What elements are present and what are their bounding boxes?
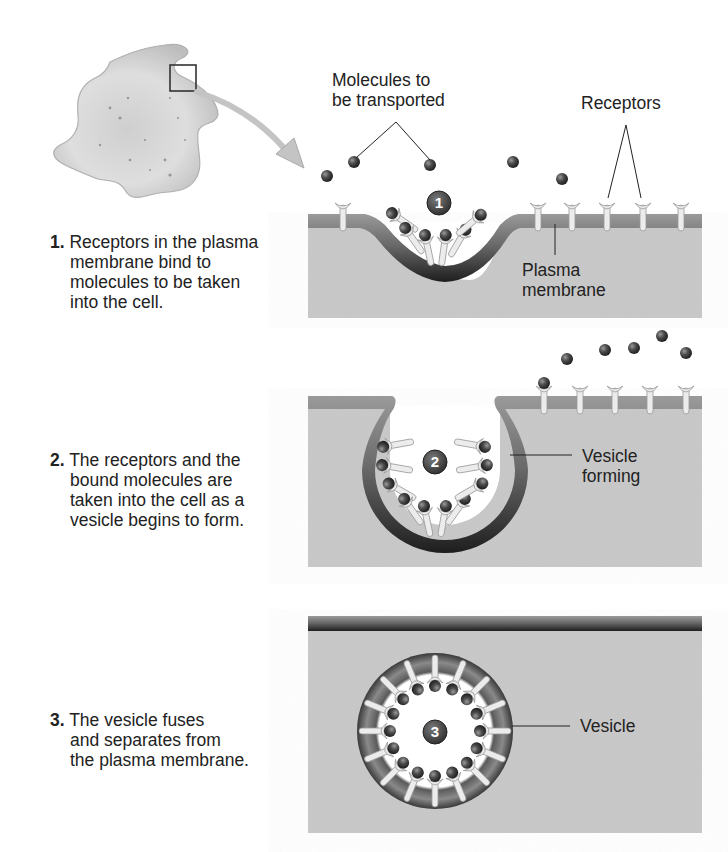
- step-1-line-2: membrane bind to: [50, 252, 258, 272]
- step-badge-2-label: 2: [423, 452, 447, 472]
- step-2-line-3: taken into the cell as a: [50, 490, 244, 510]
- label-vesicle-forming-line2: forming: [582, 466, 640, 486]
- step-caption-3: 3. The vesicle fuses and separates from …: [50, 710, 249, 770]
- amoeba-cell-icon: [54, 44, 218, 197]
- step-number-3: 3.: [50, 710, 65, 730]
- step-3-line-3: the plasma membrane.: [50, 750, 249, 770]
- label-plasma-membrane: Plasma membrane: [522, 260, 606, 300]
- label-vesicle-forming: Vesicle forming: [582, 446, 640, 486]
- step-2-line-2: bound molecules are: [50, 470, 244, 490]
- label-molecules: Molecules to be transported: [332, 70, 445, 110]
- panel-step-3: [308, 616, 702, 833]
- label-plasma-line1: Plasma: [522, 260, 606, 280]
- step-badge-1-label: 1: [427, 193, 451, 213]
- step-2-line-4: vesicle begins to form.: [50, 510, 244, 530]
- label-molecules-line2: be transported: [332, 90, 445, 110]
- label-molecules-line1: Molecules to: [332, 70, 445, 90]
- panel-step-2: [308, 330, 702, 567]
- label-vesicle: Vesicle: [580, 716, 635, 736]
- label-receptors: Receptors: [581, 93, 661, 113]
- step-1-line-3: molecules to be taken: [50, 272, 258, 292]
- step-number-2: 2.: [50, 450, 65, 470]
- step-1-line-1: Receptors in the plasma: [69, 232, 258, 252]
- label-vesicle-forming-line1: Vesicle: [582, 446, 640, 466]
- step-badge-3-label: 3: [423, 722, 447, 742]
- step-3-line-2: and separates from: [50, 730, 249, 750]
- step-caption-2: 2. The receptors and the bound molecules…: [50, 450, 244, 530]
- step-caption-1: 1. Receptors in the plasma membrane bind…: [50, 232, 258, 312]
- step-2-line-1: The receptors and the: [69, 450, 240, 470]
- panel-step-1: [308, 122, 702, 318]
- step-1-line-4: into the cell.: [50, 292, 258, 312]
- step-3-line-1: The vesicle fuses: [69, 710, 204, 730]
- step-number-1: 1.: [50, 232, 65, 252]
- label-plasma-line2: membrane: [522, 280, 606, 300]
